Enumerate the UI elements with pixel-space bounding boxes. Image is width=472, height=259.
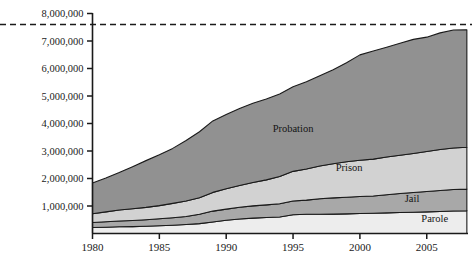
series-label-jail: Jail <box>405 193 420 204</box>
x-axis-tick-label: 1980 <box>82 241 105 253</box>
y-axis-tick-label: 5,000,000 <box>42 91 84 102</box>
x-axis-tick-label: 1985 <box>148 241 171 253</box>
y-axis-tick-label: 8,000,000 <box>42 8 84 19</box>
series-label-parole: Parole <box>421 213 448 224</box>
y-axis-tick-label: 2,000,000 <box>42 173 84 184</box>
y-axis-tick-label: 1,000,000 <box>42 201 84 212</box>
x-axis-tick-label: 2005 <box>416 241 439 253</box>
y-axis-tick-label: 6,000,000 <box>42 63 84 74</box>
y-axis-tick-label: 7,000,000 <box>42 36 84 47</box>
x-axis-tick-label: 2000 <box>349 241 372 253</box>
x-axis-tick-label: 1995 <box>282 241 305 253</box>
series-label-probation: Probation <box>273 123 315 134</box>
x-axis-tick-label: 1990 <box>215 241 238 253</box>
chart-canvas: 1,000,0002,000,0003,000,0004,000,0005,00… <box>0 0 472 259</box>
y-axis-tick-label: 3,000,000 <box>42 146 84 157</box>
series-label-prison: Prison <box>336 162 364 173</box>
stacked-area-chart: 1,000,0002,000,0003,000,0004,000,0005,00… <box>0 0 472 259</box>
y-axis-tick-label: 4,000,000 <box>42 118 84 129</box>
